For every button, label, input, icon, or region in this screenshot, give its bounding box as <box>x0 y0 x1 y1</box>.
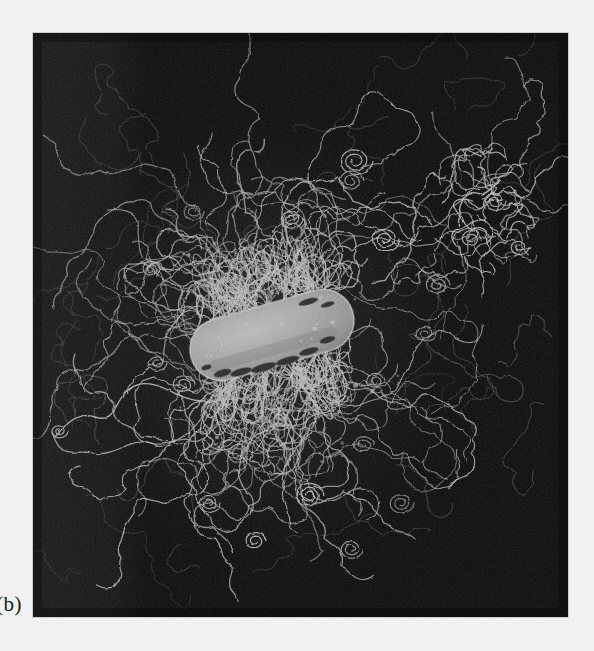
panel-label: (b) <box>0 594 22 615</box>
micrograph-image <box>33 33 568 617</box>
micrograph-panel <box>33 33 568 617</box>
figure-root: (b) <box>0 0 594 651</box>
